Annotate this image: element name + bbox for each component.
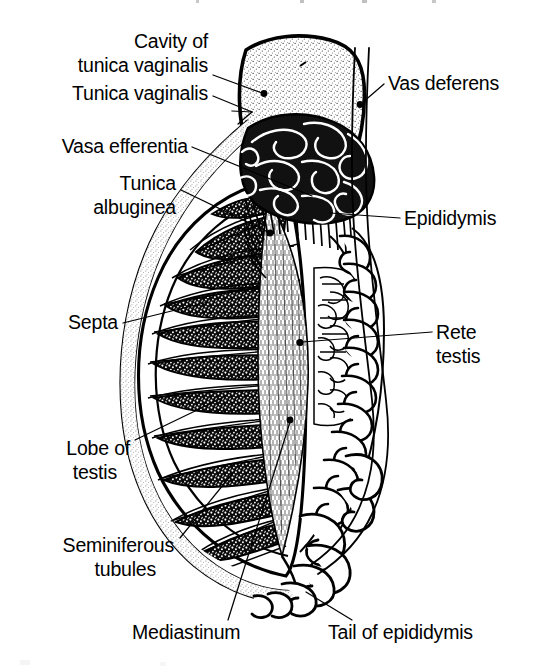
leader-dot-cavity — [261, 90, 268, 97]
label-tunica-albuginea-line1: Tunica — [119, 172, 176, 194]
leader-dot-tunica-albuginea — [267, 230, 274, 237]
label-seminiferous-tubules-line1: Seminiferous — [63, 534, 175, 556]
label-cavity-of-tunica-vaginalis-line2: tunica vaginalis — [78, 54, 209, 76]
label-rete-testis-line2: testis — [436, 345, 481, 367]
label-septa: Septa — [68, 311, 118, 333]
label-tail-of-epididymis: Tail of epididymis — [328, 621, 473, 643]
label-lobe-of-testis-line2: testis — [73, 461, 118, 483]
label-tunica-albuginea-line2: albuginea — [93, 196, 176, 218]
leader-dot-vas-deferens — [357, 101, 364, 108]
label-mediastinum: Mediastinum — [132, 621, 240, 643]
label-cavity-of-tunica-vaginalis-line1: Cavity of — [134, 30, 209, 52]
testis-epididymis-diagram: Cavity of tunica vaginalis Tunica vagina… — [0, 0, 544, 672]
label-lobe-of-testis-line1: Lobe of — [66, 437, 130, 459]
label-tunica-vaginalis: Tunica vaginalis — [72, 82, 208, 104]
label-seminiferous-tubules-line2: tubules — [95, 558, 157, 580]
anatomy-figure: Cavity of tunica vaginalis Tunica vagina… — [0, 0, 544, 672]
label-vas-deferens: Vas deferens — [388, 72, 500, 94]
label-epididymis: Epididymis — [404, 207, 497, 229]
leader-dot-rete-testis — [296, 339, 303, 346]
label-vasa-efferentia: Vasa efferentia — [62, 135, 189, 157]
leader-dot-mediastinum — [287, 417, 294, 424]
label-rete-testis-line1: Rete — [436, 321, 476, 343]
